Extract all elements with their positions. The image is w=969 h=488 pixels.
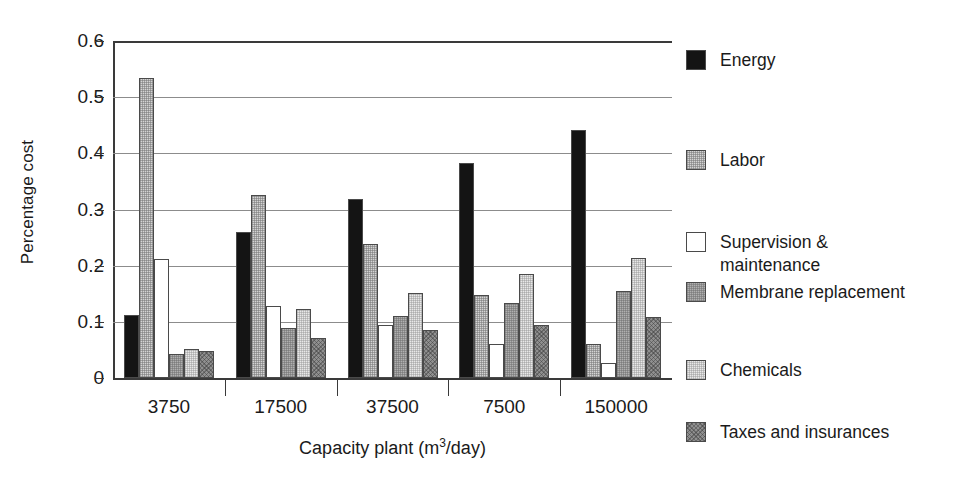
y-axis-ticks: 00.10.20.30.40.50.6 [40,41,104,378]
bar [169,354,184,378]
bar [139,78,154,378]
bar [184,349,199,378]
legend-item[interactable]: Supervision & maintenance [686,231,828,277]
bar [281,328,296,378]
x-axis-title-base: Capacity plant (m [299,438,439,458]
bar [489,344,504,378]
bar-chart-figure: Percentage cost 00.10.20.30.40.50.6 3750… [0,0,969,488]
bar [586,344,601,378]
legend-item-label: Supervision & maintenance [720,231,828,277]
bars-layer [113,41,672,378]
bar [571,130,586,378]
y-tick-mark [95,41,104,42]
legend-item[interactable]: Membrane replacement [686,281,905,304]
x-tick-mark [337,378,338,396]
legend-item-label: Chemicals [720,359,802,382]
legend-item[interactable]: Taxes and insurances [686,421,889,444]
legend-item-label: Taxes and insurances [720,421,889,444]
bar [504,303,519,378]
bar [519,274,534,378]
bar [474,295,489,378]
bar [251,195,266,378]
bar [423,330,438,378]
bar [154,259,169,378]
bar [236,232,251,378]
legend-swatch-icon [686,150,706,170]
chart-legend: EnergyLaborSupervision & maintenanceMemb… [686,41,966,441]
legend-item[interactable]: Energy [686,49,775,72]
bar [616,291,631,378]
y-tick-mark [95,153,104,154]
bar [311,338,326,378]
bar [459,163,474,378]
legend-item-label: Energy [720,49,775,72]
x-tick-mark [560,378,561,396]
legend-item[interactable]: Labor [686,149,765,172]
x-tick-mark [448,378,449,396]
bar [534,325,549,378]
bar [266,306,281,378]
x-tick-mark [225,378,226,396]
legend-swatch-icon [686,232,706,252]
legend-swatch-icon [686,282,706,302]
y-tick-mark [95,322,104,323]
bar [363,244,378,378]
x-axis-line [113,378,672,380]
x-axis-title-superscript: 3 [439,436,446,450]
legend-swatch-icon [686,422,706,442]
bar [199,351,214,378]
bar [393,316,408,378]
bar [124,315,139,378]
legend-item-label: Labor [720,149,765,172]
bar [348,199,363,378]
bar [646,317,661,378]
bar [408,293,423,378]
x-tick-label: 150000 [541,396,691,418]
legend-item[interactable]: Chemicals [686,359,802,382]
y-axis-title: Percentage cost [18,112,38,292]
plot-area [113,41,672,378]
y-tick-mark [95,266,104,267]
bar [378,325,393,378]
legend-swatch-icon [686,50,706,70]
y-tick-mark [95,378,104,379]
legend-swatch-icon [686,360,706,380]
y-tick-mark [95,97,104,98]
bar [296,309,311,378]
y-tick-mark [95,210,104,211]
x-axis-title: Capacity plant (m3/day) [113,438,672,459]
bar [631,258,646,378]
bar [601,363,616,378]
legend-item-label: Membrane replacement [720,281,905,304]
x-axis-title-tail: /day) [446,438,486,458]
